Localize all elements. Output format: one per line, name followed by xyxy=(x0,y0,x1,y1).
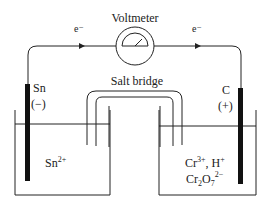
right-polarity-label: (+) xyxy=(218,99,233,113)
carbon-electrode xyxy=(238,88,243,184)
voltmeter-icon xyxy=(116,27,154,65)
electrochemical-cell-diagram: e⁻ e⁻ Voltmeter Salt bridge Sn (−) C (+)… xyxy=(0,0,271,205)
electron-arrow-right xyxy=(195,43,201,49)
salt-bridge-inner xyxy=(96,97,173,146)
salt-bridge-outer xyxy=(87,91,182,145)
electron-label-right: e⁻ xyxy=(192,23,202,34)
right-solution-line2: Cr2O72− xyxy=(186,170,224,188)
salt-bridge-label: Salt bridge xyxy=(111,74,163,88)
voltmeter-label: Voltmeter xyxy=(111,11,158,25)
right-electrode-label: C xyxy=(222,83,230,97)
right-solution-line1: Cr3+, H+ xyxy=(185,155,225,170)
left-polarity-label: (−) xyxy=(31,97,46,111)
left-electrode-label: Sn xyxy=(33,81,46,95)
right-wire xyxy=(154,46,241,88)
left-wire xyxy=(28,46,116,84)
electron-label-left: e⁻ xyxy=(74,23,84,34)
electron-arrow-left xyxy=(79,43,85,49)
sn-electrode xyxy=(25,84,30,181)
left-solution-label: Sn2+ xyxy=(45,155,67,170)
